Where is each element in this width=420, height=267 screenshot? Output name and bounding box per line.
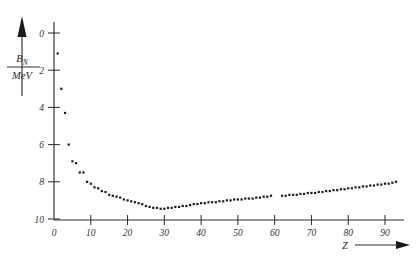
- data-point: [207, 201, 209, 203]
- x-tick-label: 30: [159, 228, 170, 238]
- data-point: [358, 186, 360, 188]
- data-point: [93, 186, 95, 188]
- plot-canvas: 0246810 0102030405060708090 BN MeV Z: [0, 0, 420, 267]
- data-point: [391, 182, 393, 184]
- data-point: [347, 187, 349, 189]
- data-point: [288, 194, 290, 196]
- y-axis-numerator: BN: [16, 53, 28, 67]
- data-point: [86, 181, 88, 183]
- data-point: [182, 205, 184, 207]
- data-point: [68, 144, 70, 146]
- x-tick-label: 70: [307, 228, 317, 238]
- data-point: [145, 205, 147, 207]
- data-point: [318, 191, 320, 193]
- data-point: [377, 183, 379, 185]
- data-point: [60, 88, 62, 90]
- data-point: [285, 195, 287, 197]
- x-axis-group: [54, 220, 410, 249]
- data-point: [200, 202, 202, 204]
- data-point: [266, 196, 268, 198]
- x-tick-label: 50: [233, 228, 243, 238]
- data-point: [343, 188, 345, 190]
- data-point: [354, 186, 356, 188]
- data-point: [222, 200, 224, 202]
- data-point: [196, 203, 198, 205]
- y-tick-label: 0: [39, 29, 44, 39]
- data-point: [156, 207, 158, 209]
- data-point: [395, 181, 397, 183]
- data-point: [126, 199, 128, 201]
- data-point: [310, 192, 312, 194]
- y-axis-ticks: 0246810: [35, 29, 61, 225]
- x-axis-title: Z: [342, 240, 348, 251]
- data-point: [152, 207, 154, 209]
- data-point: [119, 197, 121, 199]
- data-point: [64, 112, 66, 114]
- data-point: [163, 208, 165, 210]
- y-tick-label: 8: [39, 177, 44, 187]
- data-point: [104, 191, 106, 193]
- data-point: [325, 190, 327, 192]
- data-point: [226, 199, 228, 201]
- data-point: [211, 201, 213, 203]
- data-point: [189, 204, 191, 206]
- data-point: [373, 184, 375, 186]
- data-point: [240, 198, 242, 200]
- data-point: [185, 205, 187, 207]
- data-point: [71, 160, 73, 162]
- y-axis-denominator: MeV: [11, 70, 33, 81]
- data-point: [75, 162, 77, 164]
- data-point: [160, 208, 162, 210]
- data-point: [204, 202, 206, 204]
- data-point: [369, 184, 371, 186]
- data-point: [57, 52, 59, 54]
- y-tick-label: 6: [39, 140, 44, 150]
- data-point: [233, 198, 235, 200]
- data-point: [296, 194, 298, 196]
- data-point: [380, 183, 382, 185]
- data-point: [137, 202, 139, 204]
- data-point: [237, 198, 239, 200]
- data-point: [112, 195, 114, 197]
- data-point: [329, 190, 331, 192]
- x-axis-ticks: 0102030405060708090: [52, 215, 390, 238]
- data-point: [215, 201, 217, 203]
- x-tick-label: 0: [52, 228, 57, 238]
- data-point: [270, 195, 272, 197]
- y-axis-subscript: N: [22, 58, 29, 67]
- data-point: [218, 200, 220, 202]
- data-point: [336, 189, 338, 191]
- data-point: [259, 197, 261, 199]
- data-point: [141, 203, 143, 205]
- data-point: [134, 201, 136, 203]
- x-tick-label: 80: [343, 228, 353, 238]
- data-point: [388, 183, 390, 185]
- data-point: [97, 187, 99, 189]
- data-point: [299, 193, 301, 195]
- y-tick-label: 10: [35, 215, 45, 225]
- data-point: [340, 188, 342, 190]
- data-point: [90, 183, 92, 185]
- data-point: [321, 191, 323, 193]
- data-point: [178, 206, 180, 208]
- data-point: [351, 187, 353, 189]
- x-tick-label: 20: [123, 228, 133, 238]
- data-point: [244, 197, 246, 199]
- data-point: [171, 207, 173, 209]
- x-tick-label: 40: [196, 228, 206, 238]
- scatter-plot-figure: 0246810 0102030405060708090 BN MeV Z: [0, 0, 420, 267]
- data-point: [314, 192, 316, 194]
- data-point: [281, 195, 283, 197]
- y-axis-arrow: [18, 16, 27, 37]
- x-tick-label: 90: [380, 228, 390, 238]
- x-tick-label: 60: [270, 228, 280, 238]
- data-point: [362, 185, 364, 187]
- data-point: [229, 199, 231, 201]
- data-point: [255, 197, 257, 199]
- data-point: [149, 206, 151, 208]
- data-point: [123, 198, 125, 200]
- y-tick-label: 4: [39, 103, 44, 113]
- data-point: [366, 185, 368, 187]
- data-point: [292, 194, 294, 196]
- data-point: [174, 206, 176, 208]
